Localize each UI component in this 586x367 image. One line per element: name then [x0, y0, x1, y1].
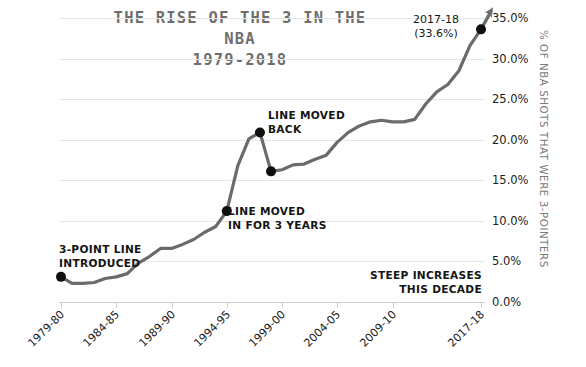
y-axis-tick-label: 10.0%: [492, 214, 529, 228]
x-axis-tick-label-wrap: 1979-80: [25, 308, 67, 350]
x-axis-tick-label: 2004-05: [302, 308, 344, 350]
annotation-line-moved-back: LINE MOVED BACK: [268, 109, 345, 136]
y-axis-tick-label: 15.0%: [492, 173, 529, 187]
x-axis-tick: [116, 303, 117, 308]
x-axis-tick-label: 2009-10: [357, 308, 399, 350]
y-axis-tick-label: 0.0%: [492, 295, 521, 309]
x-axis-tick: [172, 303, 173, 308]
annotation-steep-increases-line1: STEEP INCREASES: [330, 269, 482, 283]
x-axis-tick-label: 1984-85: [81, 308, 123, 350]
annotation-line-moved-in-line2: IN FOR 3 YEARS: [228, 219, 327, 233]
y-axis-tick-label: 35.0%: [492, 11, 529, 25]
gridline: [59, 59, 485, 60]
annotation-three-point-intro-line2: INTRODUCED: [59, 257, 142, 271]
x-axis-tick-label-wrap: 2004-05: [302, 308, 344, 350]
gridline: [59, 180, 485, 181]
x-axis-tick-label-wrap: 1999-00: [247, 308, 289, 350]
annotation-steep-increases-line2: THIS DECADE: [330, 283, 482, 297]
annotation-final-point-line1: 2017-18: [404, 13, 468, 27]
chart-root: THE RISE OF THE 3 IN THE NBA 1979-2018 0…: [0, 0, 586, 367]
annotation-three-point-intro-line1: 3-POINT LINE: [59, 243, 142, 257]
x-axis-tick-label: 1979-80: [25, 308, 67, 350]
annotation-final-point: 2017-18 (33.6%): [404, 13, 468, 41]
x-axis-tick: [282, 303, 283, 308]
annotation-three-point-intro: 3-POINT LINE INTRODUCED: [59, 243, 142, 270]
x-axis-tick: [481, 303, 482, 308]
gridline: [59, 302, 485, 303]
y-axis-title: % OF NBA SHOTS THAT WERE 3-POINTERS: [538, 30, 549, 300]
x-axis-tick: [227, 303, 228, 308]
y-axis-tick-label: 5.0%: [492, 254, 521, 268]
x-axis-tick: [393, 303, 394, 308]
annotation-line-moved-back-line2: BACK: [268, 123, 345, 137]
x-axis-tick-label: 1989-90: [136, 308, 178, 350]
x-axis-tick-label-wrap: 2009-10: [357, 308, 399, 350]
annotation-line-moved-in-line1: LINE MOVED: [228, 205, 327, 219]
x-axis-tick: [61, 303, 62, 308]
x-axis-tick-label: 1999-00: [247, 308, 289, 350]
gridline: [59, 99, 485, 100]
y-axis-tick-label: 25.0%: [492, 92, 529, 106]
annotation-final-point-line2: (33.6%): [404, 27, 468, 41]
y-axis-tick-label: 20.0%: [492, 133, 529, 147]
x-axis-tick-label: 2017-18: [445, 308, 487, 350]
x-axis-tick-label-wrap: 1994-95: [191, 308, 233, 350]
gridline: [59, 140, 485, 141]
annotation-line-moved-back-line1: LINE MOVED: [268, 109, 345, 123]
x-axis-tick: [337, 303, 338, 308]
x-axis-tick-label-wrap: 2017-18: [445, 308, 487, 350]
x-axis-tick-label-wrap: 1984-85: [81, 308, 123, 350]
annotation-line-moved-in: LINE MOVED IN FOR 3 YEARS: [228, 205, 327, 232]
y-axis-tick-label: 30.0%: [492, 52, 529, 66]
x-axis-tick-label: 1994-95: [191, 308, 233, 350]
x-axis-tick-label-wrap: 1989-90: [136, 308, 178, 350]
annotation-steep-increases: STEEP INCREASES THIS DECADE: [330, 269, 482, 296]
